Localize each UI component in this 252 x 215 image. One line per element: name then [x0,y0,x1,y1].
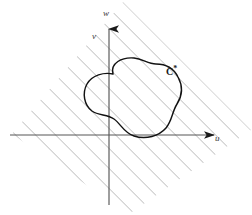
region-label-c-star: C* [166,66,177,77]
axis-label-u: u [215,133,220,143]
region-label-superscript: * [173,64,177,73]
axis-label-v: v [92,31,96,41]
axis-label-w: w [103,8,109,18]
diagram-svg [0,0,252,215]
hatched-region [0,0,252,215]
figure-canvas: w v u C* [0,0,252,215]
